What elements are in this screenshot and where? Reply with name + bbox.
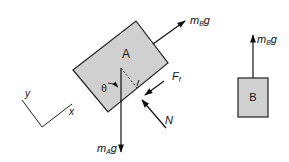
tension-b-label: mBg [257, 33, 278, 46]
x-axis-label: x [68, 106, 75, 117]
normal-force-arrow [142, 100, 166, 128]
tension-a-label: mBg [190, 14, 211, 27]
block-b-label: B [249, 91, 256, 103]
friction-label: Ff [172, 70, 182, 83]
block-a-label: A [122, 47, 130, 61]
normal-force-label: N [165, 114, 173, 126]
free-body-diagram: A θ mBg Ff N mAg B mBg y x [0, 0, 289, 162]
friction-arrow [145, 81, 164, 95]
tension-a-arrow [153, 21, 185, 44]
y-axis-label: y [24, 88, 31, 99]
coordinate-axes [22, 100, 72, 127]
theta-label: θ [101, 83, 107, 94]
weight-a-label: mAg [97, 142, 118, 155]
